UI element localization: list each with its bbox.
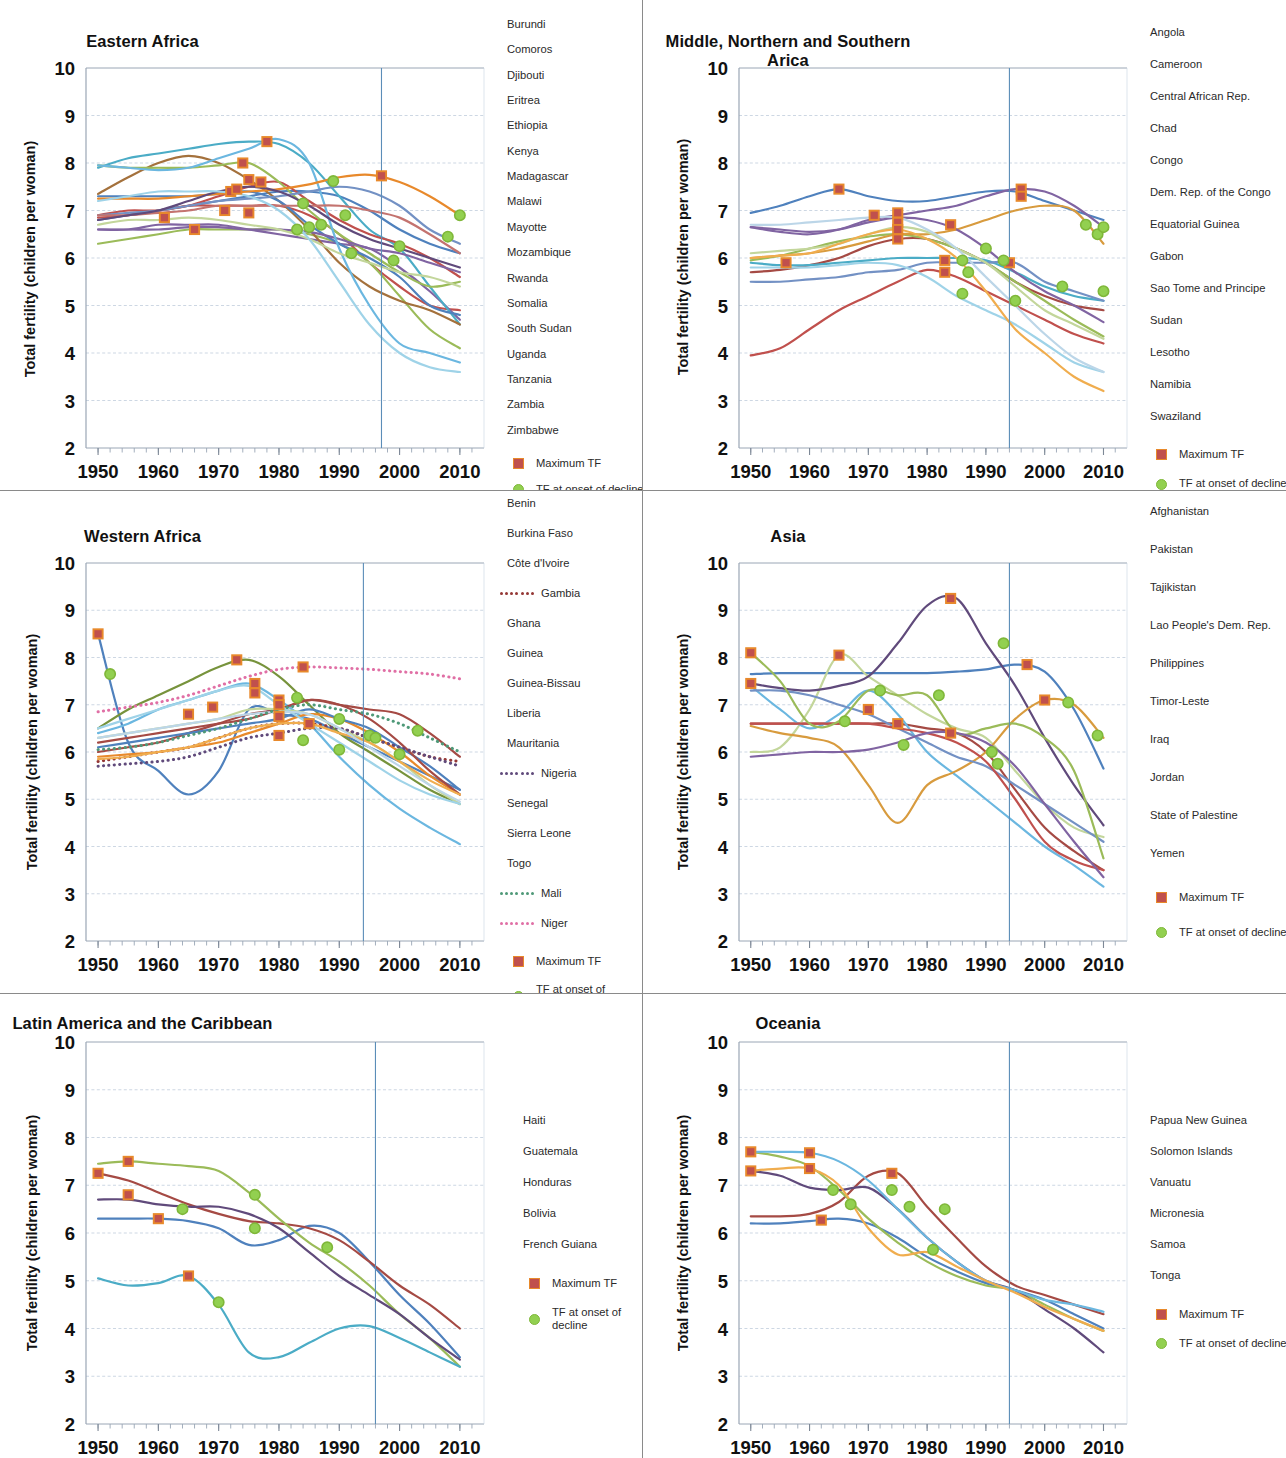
- legend-item[interactable]: Honduras: [516, 1176, 572, 1190]
- legend-label: Sierra Leone: [507, 827, 571, 841]
- legend-item[interactable]: Nigeria: [500, 767, 576, 781]
- onset-tf-marker: [1092, 730, 1102, 740]
- legend-item[interactable]: Ghana: [500, 617, 541, 631]
- legend-item[interactable]: Sudan: [1143, 314, 1182, 328]
- y-tick-label: 2: [65, 931, 75, 952]
- legend-item[interactable]: Papua New Guinea: [1143, 1114, 1247, 1128]
- legend-item[interactable]: Zambia: [500, 398, 544, 412]
- legend-label: Sudan: [1150, 314, 1182, 328]
- legend-item[interactable]: Micronesia: [1143, 1207, 1204, 1221]
- legend-item[interactable]: Equatorial Guinea: [1143, 218, 1240, 232]
- legend-item[interactable]: Cameroon: [1143, 58, 1202, 72]
- legend-label: Rwanda: [507, 272, 548, 286]
- legend-item[interactable]: Malawi: [500, 195, 542, 209]
- legend-item[interactable]: Haiti: [516, 1114, 545, 1128]
- panel-western-africa: Western AfricaTotal fertility (children …: [0, 491, 643, 994]
- legend-item[interactable]: Burundi: [500, 18, 546, 32]
- max-tf-marker: [940, 268, 949, 277]
- legend-item[interactable]: Guinea: [500, 647, 543, 661]
- legend-item[interactable]: Afghanistan: [1143, 505, 1209, 519]
- legend-item[interactable]: Liberia: [500, 707, 541, 721]
- legend-item[interactable]: Swaziland: [1143, 410, 1201, 424]
- legend-dotted-swatch-icon: [500, 892, 534, 896]
- legend-item[interactable]: South Sudan: [500, 322, 572, 336]
- legend-item[interactable]: Guatemala: [516, 1145, 578, 1159]
- legend-item[interactable]: Tonga: [1143, 1269, 1180, 1283]
- legend-item[interactable]: Yemen: [1143, 847, 1184, 861]
- legend-item[interactable]: Congo: [1143, 154, 1183, 168]
- legend-item-onset: TF at onset of decline: [1143, 477, 1286, 491]
- legend-item[interactable]: Somalia: [500, 297, 547, 311]
- legend-item[interactable]: Mayotte: [500, 221, 547, 235]
- legend-item[interactable]: Tanzania: [500, 373, 552, 387]
- legend-item[interactable]: Angola: [1143, 26, 1185, 40]
- legend-item[interactable]: Eritrea: [500, 94, 540, 108]
- legend-label: Niger: [541, 917, 568, 931]
- legend-item[interactable]: Lao People's Dem. Rep.: [1143, 619, 1271, 633]
- legend-item[interactable]: Mozambique: [500, 246, 571, 260]
- legend-item[interactable]: Benin: [500, 497, 536, 511]
- legend-item[interactable]: Comoros: [500, 43, 552, 57]
- max-tf-marker: [746, 648, 755, 657]
- legend-item[interactable]: Kenya: [500, 145, 539, 159]
- legend-item[interactable]: Jordan: [1143, 771, 1184, 785]
- y-tick-label: 9: [65, 106, 75, 127]
- onset-tf-marker: [998, 255, 1008, 265]
- legend-item[interactable]: Burkina Faso: [500, 527, 573, 541]
- legend-label: Côte d'Ivoire: [507, 557, 569, 571]
- legend-item[interactable]: Vanuatu: [1143, 1176, 1191, 1190]
- legend-label: Mauritania: [507, 737, 559, 751]
- legend-label: Timor-Leste: [1150, 695, 1209, 709]
- legend-item[interactable]: Philippines: [1143, 657, 1204, 671]
- y-tick-label: 5: [65, 789, 75, 810]
- x-tick-label: 1960: [789, 954, 830, 975]
- onset-tf-marker: [388, 255, 398, 265]
- legend-item[interactable]: Senegal: [500, 797, 548, 811]
- legend-label: TF at onset of decline: [536, 483, 643, 491]
- legend-item[interactable]: Chad: [1143, 122, 1177, 136]
- legend-item[interactable]: Sao Tome and Principe: [1143, 282, 1265, 296]
- legend-item[interactable]: Gabon: [1143, 250, 1184, 264]
- max-tf-marker: [184, 1271, 193, 1280]
- legend-item-onset: TF at onset of decline: [1143, 926, 1286, 940]
- legend-label: Iraq: [1150, 733, 1169, 747]
- legend-item[interactable]: Pakistan: [1143, 543, 1193, 557]
- legend-item[interactable]: Sierra Leone: [500, 827, 571, 841]
- legend-item[interactable]: Solomon Islands: [1143, 1145, 1233, 1159]
- legend-item-onset: TF at onset of decline: [516, 1306, 643, 1333]
- x-tick-label: 2010: [439, 1437, 480, 1458]
- legend-item[interactable]: Tajikistan: [1143, 581, 1196, 595]
- onset-tf-marker: [304, 222, 314, 232]
- legend-item[interactable]: Togo: [500, 857, 531, 871]
- legend-item[interactable]: Zimbabwe: [500, 424, 559, 438]
- legend-item[interactable]: Ethiopia: [500, 119, 547, 133]
- legend-item[interactable]: Niger: [500, 917, 568, 931]
- legend-item[interactable]: Mauritania: [500, 737, 559, 751]
- legend-item-onset: TF at onset of decline: [1143, 1337, 1286, 1351]
- onset-tf-marker: [213, 1297, 223, 1307]
- legend-label: Chad: [1150, 122, 1177, 136]
- legend-item[interactable]: Rwanda: [500, 272, 548, 286]
- legend-label: Tonga: [1150, 1269, 1180, 1283]
- legend-item[interactable]: Côte d'Ivoire: [500, 557, 569, 571]
- legend-item[interactable]: French Guiana: [516, 1238, 597, 1252]
- x-tick-label: 1970: [198, 461, 239, 482]
- legend-item[interactable]: Dem. Rep. of the Congo: [1143, 186, 1271, 200]
- legend-item[interactable]: Lesotho: [1143, 346, 1190, 360]
- legend-item[interactable]: Namibia: [1143, 378, 1191, 392]
- x-tick-label: 1970: [848, 461, 889, 482]
- chart-panel-oceania: OceaniaTotal fertility (children per wom…: [643, 994, 1286, 1458]
- max-tf-marker: [160, 213, 169, 222]
- legend-item[interactable]: Timor-Leste: [1143, 695, 1209, 709]
- legend-item[interactable]: Iraq: [1143, 733, 1169, 747]
- legend-item[interactable]: Mali: [500, 887, 562, 901]
- legend-item[interactable]: State of Palestine: [1143, 809, 1238, 823]
- legend-item[interactable]: Samoa: [1143, 1238, 1185, 1252]
- legend-item[interactable]: Madagascar: [500, 170, 569, 184]
- legend-item[interactable]: Bolivia: [516, 1207, 556, 1221]
- legend-item[interactable]: Djibouti: [500, 69, 544, 83]
- legend-item[interactable]: Gambia: [500, 587, 580, 601]
- legend-item[interactable]: Uganda: [500, 348, 546, 362]
- legend-item[interactable]: Central African Rep.: [1143, 90, 1250, 104]
- legend-item[interactable]: Guinea-Bissau: [500, 677, 580, 691]
